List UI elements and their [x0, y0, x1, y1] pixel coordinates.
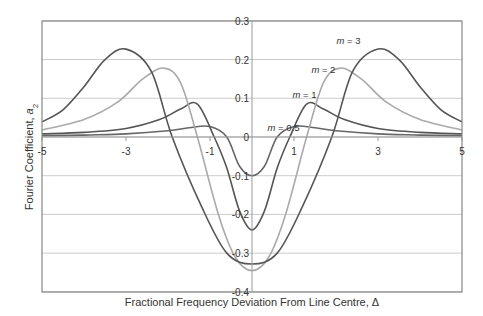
curve-label: m = 1: [292, 89, 316, 100]
y-tick-label: 0.1: [235, 93, 249, 104]
y-tick-label: -0.3: [232, 248, 250, 259]
fourier-coefficient-chart: -5-3-11350.30.20.10-0.1-0.2-0.3-0.4 m = …: [0, 0, 483, 316]
tick-labels: -5-3-11350.30.20.10-0.1-0.2-0.3-0.4: [38, 16, 466, 298]
x-axis-title: Fractional Frequency Deviation From Line…: [125, 296, 380, 308]
y-tick-label: 0: [243, 132, 249, 143]
y-axis-title-sub: 2: [31, 103, 40, 108]
x-tick-label: -5: [38, 146, 47, 157]
y-tick-label: -0.1: [232, 171, 250, 182]
curve-labels: m = 0.5m = 1m = 2m = 3: [268, 35, 361, 133]
y-tick-label: -0.2: [232, 209, 250, 220]
axes: [42, 21, 462, 292]
curve-label: m = 2: [311, 64, 335, 75]
curve-label: m = 0.5: [268, 122, 300, 133]
y-tick-label: 0.3: [235, 16, 249, 27]
x-tick-label: -3: [122, 146, 131, 157]
x-tick-label: 5: [459, 146, 465, 157]
x-tick-label: -1: [206, 146, 215, 157]
curve-label: m = 3: [337, 35, 361, 46]
x-tick-label: 3: [375, 146, 381, 157]
y-tick-label: 0.2: [235, 55, 249, 66]
x-tick-label: 1: [291, 146, 297, 157]
y-axis-title-text: Fourier Coefficient,: [23, 114, 35, 210]
